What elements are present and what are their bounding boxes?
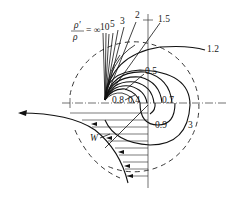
density-ratio-label: ρ' ρ = ∞ <box>71 20 101 42</box>
spiral-arm <box>20 113 128 183</box>
ratio-equals: = ∞ <box>86 25 101 35</box>
label-1-5: 1.5 <box>158 14 170 24</box>
label-0-7: 0.7 <box>162 95 174 105</box>
velocity-label-w: W <box>90 133 99 143</box>
diagonal-line <box>105 105 148 148</box>
label-2: 2 <box>135 10 140 20</box>
label-10: 10 <box>100 22 110 32</box>
ratio-denominator: ρ <box>72 32 78 42</box>
label-5: 5 <box>110 19 115 29</box>
trajectory-diagram: ρ' ρ = ∞ 10 5 3 2 1.5 1.2 0.5 0.8 0.4 0.… <box>0 0 242 198</box>
label-3-inner: 3 <box>188 120 193 130</box>
dashed-boundary-circle <box>70 42 199 172</box>
trajectory-0-7 <box>150 103 155 114</box>
label-3-top: 3 <box>120 16 125 26</box>
label-0-5: 0.5 <box>145 66 157 76</box>
arrow-head-left <box>18 110 27 116</box>
label-0-4: 0.4 <box>128 95 140 105</box>
ratio-numerator: ρ' <box>73 20 82 30</box>
label-0-8: 0.8 <box>112 95 124 105</box>
label-1-2: 1.2 <box>207 44 219 54</box>
label-0-9: 0.9 <box>155 120 167 130</box>
